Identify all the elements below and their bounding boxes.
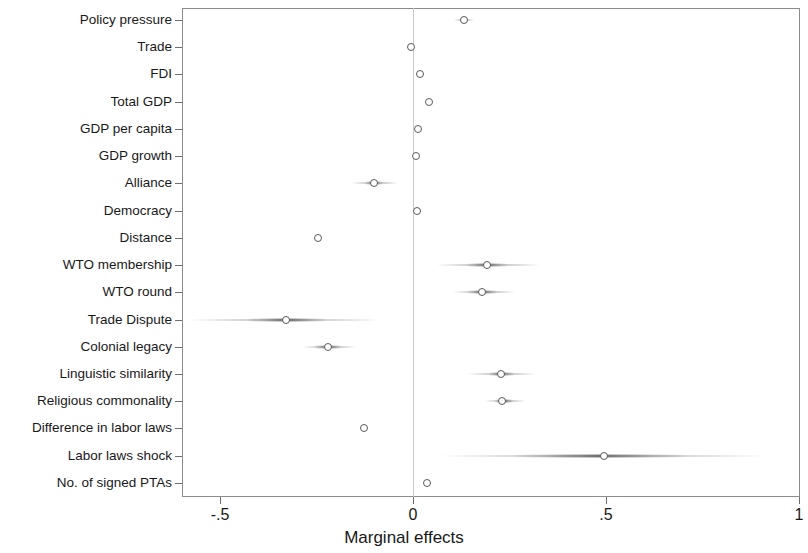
y-axis-label: FDI xyxy=(0,67,172,81)
x-axis-tick-label: 0 xyxy=(409,506,418,524)
data-point-marker xyxy=(324,343,332,351)
y-axis-label: No. of signed PTAs xyxy=(0,476,172,490)
x-axis-tick xyxy=(606,497,607,504)
y-axis-label: Colonial legacy xyxy=(0,340,172,354)
y-axis-tick xyxy=(175,292,182,293)
y-axis-label: GDP growth xyxy=(0,149,172,163)
y-axis-label: Democracy xyxy=(0,204,172,218)
data-point-marker xyxy=(414,125,422,133)
y-axis-tick xyxy=(175,156,182,157)
y-axis-tick xyxy=(175,347,182,348)
data-point-marker xyxy=(412,152,420,160)
data-point-marker xyxy=(498,397,506,405)
y-axis-tick xyxy=(175,47,182,48)
data-point-marker xyxy=(416,70,424,78)
y-axis-label: GDP per capita xyxy=(0,122,172,136)
data-point-marker xyxy=(360,424,368,432)
data-point-marker xyxy=(483,261,491,269)
x-axis-tick-label: 1 xyxy=(795,506,804,524)
data-point-marker xyxy=(314,234,322,242)
x-axis-title: Marginal effects xyxy=(0,528,808,548)
plot-area xyxy=(182,8,800,497)
y-axis-label: Distance xyxy=(0,231,172,245)
y-axis-label: Alliance xyxy=(0,176,172,190)
y-axis-tick xyxy=(175,265,182,266)
data-point-marker xyxy=(460,16,468,24)
data-point-marker xyxy=(478,288,486,296)
data-point-marker xyxy=(407,43,415,51)
y-axis-tick xyxy=(175,483,182,484)
y-axis-label: Policy pressure xyxy=(0,13,172,27)
y-axis-tick xyxy=(175,456,182,457)
y-axis-label: Labor laws shock xyxy=(0,449,172,463)
y-axis-tick xyxy=(175,211,182,212)
marginal-effects-dot-plot: Policy pressureTradeFDITotal GDPGDP per … xyxy=(0,0,808,553)
y-axis-label: Difference in labor laws xyxy=(0,421,172,435)
y-axis-tick xyxy=(175,401,182,402)
y-axis-label: Trade xyxy=(0,40,172,54)
y-axis-tick xyxy=(175,74,182,75)
zero-reference-line xyxy=(413,8,414,497)
y-axis-label: WTO round xyxy=(0,285,172,299)
data-point-marker xyxy=(423,479,431,487)
data-point-marker xyxy=(413,207,421,215)
y-axis-tick xyxy=(175,374,182,375)
y-axis-label: Total GDP xyxy=(0,95,172,109)
x-axis-tick-label: .5 xyxy=(599,506,612,524)
y-axis-tick xyxy=(175,20,182,21)
y-axis-tick xyxy=(175,428,182,429)
x-axis-tick xyxy=(220,497,221,504)
x-axis-tick xyxy=(799,497,800,504)
data-point-marker xyxy=(370,179,378,187)
data-point-marker xyxy=(282,316,290,324)
data-point-marker xyxy=(425,98,433,106)
y-axis-label: Linguistic similarity xyxy=(0,367,172,381)
y-axis-tick xyxy=(175,129,182,130)
y-axis-tick xyxy=(175,102,182,103)
y-axis-tick xyxy=(175,183,182,184)
y-axis-label: Religious commonality xyxy=(0,394,172,408)
data-point-marker xyxy=(497,370,505,378)
x-axis-tick-label: -.5 xyxy=(211,506,230,524)
x-axis-tick xyxy=(413,497,414,504)
data-point-marker xyxy=(600,452,608,460)
y-axis-label: WTO membership xyxy=(0,258,172,272)
y-axis-label: Trade Dispute xyxy=(0,313,172,327)
y-axis-tick xyxy=(175,320,182,321)
y-axis-tick xyxy=(175,238,182,239)
